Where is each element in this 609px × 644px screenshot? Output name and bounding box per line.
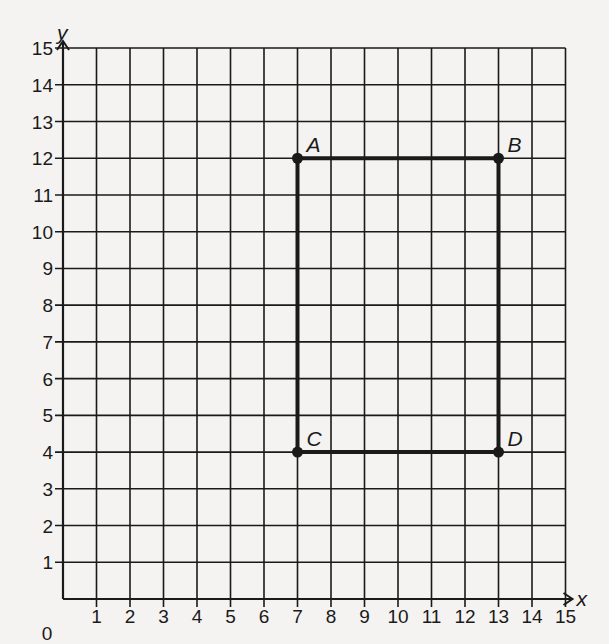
y-tick-label: 11 [33, 185, 53, 206]
y-tick-label: 14 [32, 75, 54, 96]
x-tick-label: 13 [488, 606, 509, 627]
point-a-marker [292, 153, 303, 164]
point-b-marker [493, 153, 504, 164]
y-tick-label: 10 [32, 222, 53, 243]
y-axis-label: y [55, 21, 69, 44]
tick-labels: 0123456789101112131415123456789101112131… [32, 38, 576, 644]
y-tick-label: 9 [42, 258, 53, 279]
x-tick-label: 7 [292, 606, 303, 627]
x-tick-label: 9 [359, 606, 370, 627]
y-tick-label: 3 [42, 479, 53, 500]
labeled-points: ABCD [292, 133, 523, 457]
x-tick-label: 4 [192, 606, 203, 627]
x-tick-label: 5 [225, 606, 236, 627]
x-tick-label: 10 [387, 606, 408, 627]
point-d-marker [493, 447, 504, 458]
y-tick-label: 13 [32, 112, 53, 133]
y-tick-label: 15 [32, 38, 53, 59]
origin-label: 0 [42, 623, 53, 644]
point-d-label: D [508, 427, 523, 450]
y-tick-label: 2 [42, 516, 53, 537]
y-tick-label: 6 [42, 369, 53, 390]
x-tick-label: 12 [454, 606, 475, 627]
axes: xy [55, 21, 589, 610]
grid-lines [55, 48, 566, 607]
y-tick-label: 5 [42, 405, 53, 426]
point-c-marker [292, 447, 303, 458]
point-c-label: C [307, 427, 323, 450]
x-tick-label: 2 [125, 606, 136, 627]
point-a-label: A [305, 133, 321, 156]
x-tick-label: 3 [158, 606, 169, 627]
x-tick-label: 6 [259, 606, 270, 627]
coordinate-plane: xy 0123456789101112131415123456789101112… [0, 0, 609, 644]
x-tick-label: 15 [555, 606, 576, 627]
y-tick-label: 7 [42, 332, 53, 353]
point-b-label: B [508, 133, 522, 156]
y-tick-label: 8 [42, 295, 53, 316]
x-axis-label: x [576, 587, 589, 610]
x-tick-label: 1 [91, 606, 102, 627]
y-tick-label: 1 [42, 552, 53, 573]
x-tick-label: 14 [521, 606, 543, 627]
y-tick-label: 4 [42, 442, 53, 463]
y-tick-label: 12 [32, 148, 53, 169]
coordinate-grid-figure: xy 0123456789101112131415123456789101112… [0, 0, 609, 644]
x-tick-label: 8 [326, 606, 337, 627]
x-tick-label: 11 [422, 606, 442, 627]
